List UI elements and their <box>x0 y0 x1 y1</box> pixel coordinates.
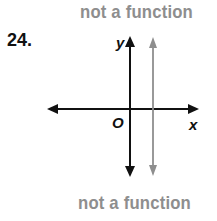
x-axis-label: x <box>188 116 198 133</box>
x-axis-left-arrow-icon <box>47 104 58 114</box>
line-down-arrow-icon <box>149 165 157 176</box>
line-up-arrow-icon <box>149 37 157 48</box>
y-axis-down-arrow-icon <box>125 166 135 177</box>
y-axis-up-arrow-icon <box>125 36 135 47</box>
y-axis-label: y <box>115 34 125 51</box>
origin-label: O <box>112 114 124 131</box>
x-axis-right-arrow-icon <box>188 104 199 114</box>
vertical-line-graph <box>149 37 157 176</box>
coordinate-graph: y O x <box>0 0 217 221</box>
bottom-answer-label: not a function <box>78 192 191 214</box>
y-axis <box>125 36 135 177</box>
x-axis <box>47 104 199 114</box>
